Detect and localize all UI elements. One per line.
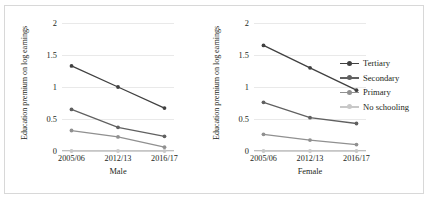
data-point — [163, 145, 167, 149]
x-axis-tick-label: 2005/06 — [58, 154, 85, 163]
x-axis-tick-label: 2016/17 — [343, 154, 370, 163]
y-axis-title: Education premium on log earnings — [212, 15, 221, 151]
legend-dot — [347, 104, 352, 109]
chart-panel-male: Education premium on log earnings 00.511… — [4, 5, 200, 194]
x-axis-tick-label: 2012/13 — [105, 154, 132, 163]
legend-item-label: Tertiary — [363, 58, 390, 68]
plot-area-male: 00.511.522005/062012/132016/17Male — [62, 23, 174, 151]
data-point — [70, 149, 74, 153]
legend-marker-icon — [340, 59, 359, 68]
legend-item-label: No schooling — [363, 102, 409, 112]
data-point — [116, 135, 120, 139]
y-axis-tick-label: 2 — [245, 19, 249, 28]
y-axis-title: Education premium on log earnings — [20, 15, 29, 151]
data-point — [163, 149, 167, 153]
data-point — [355, 143, 359, 147]
y-axis-tick-label: 1.5 — [239, 51, 249, 60]
data-point — [308, 66, 312, 70]
y-axis-tick-label: 2 — [53, 19, 57, 28]
data-point — [308, 116, 312, 120]
data-point — [163, 134, 167, 138]
legend-item-label: Secondary — [363, 73, 399, 83]
legend-marker-icon — [340, 88, 359, 97]
legend-dot — [347, 75, 352, 80]
x-axis-tick-label: 2005/06 — [250, 154, 277, 163]
legend-item-label: Primary — [363, 87, 391, 97]
x-axis-tick-label: 2012/13 — [297, 154, 324, 163]
data-point — [262, 132, 266, 136]
data-point — [116, 125, 120, 129]
legend-marker-icon — [340, 102, 359, 111]
legend-item-primary[interactable]: Primary — [340, 85, 428, 100]
data-point — [262, 149, 266, 153]
x-axis-tick-label: 2016/17 — [151, 154, 178, 163]
data-point — [308, 149, 312, 153]
data-point — [70, 64, 74, 68]
y-axis-tick-label: 0.5 — [47, 115, 57, 124]
x-axis-title: Male — [109, 167, 126, 176]
y-axis-tick-label: 1 — [53, 83, 57, 92]
legend-item-no-schooling[interactable]: No schooling — [340, 100, 428, 115]
data-point — [163, 106, 167, 110]
data-point — [116, 85, 120, 89]
figure: Education premium on log earnings 00.511… — [0, 0, 431, 200]
data-point — [116, 149, 120, 153]
legend-item-secondary[interactable]: Secondary — [340, 71, 428, 86]
data-point — [355, 122, 359, 126]
data-point — [70, 108, 74, 112]
data-point — [262, 100, 266, 104]
legend: TertiarySecondaryPrimaryNo schooling — [340, 56, 428, 114]
data-point — [262, 44, 266, 48]
data-point — [70, 129, 74, 133]
data-point — [308, 138, 312, 142]
y-axis-tick-label: 1.5 — [47, 51, 57, 60]
legend-marker-icon — [340, 73, 359, 82]
data-point — [355, 149, 359, 153]
legend-item-tertiary[interactable]: Tertiary — [340, 56, 428, 71]
x-axis-title: Female — [298, 167, 323, 176]
y-axis-tick-label: 0 — [245, 147, 249, 156]
y-axis-tick-label: 0 — [53, 147, 57, 156]
y-axis-tick-label: 0.5 — [239, 115, 249, 124]
legend-dot — [347, 61, 352, 66]
series-layer — [62, 23, 174, 151]
y-axis-tick-label: 1 — [245, 83, 249, 92]
legend-dot — [347, 90, 352, 95]
